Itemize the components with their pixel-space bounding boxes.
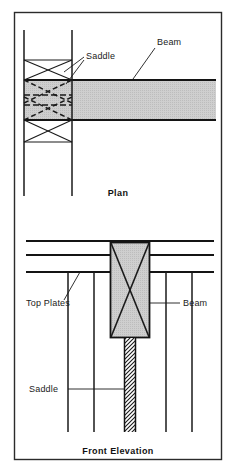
- plan-saddle-fill: [24, 80, 72, 120]
- plan-caption: Plan: [108, 188, 129, 198]
- elevation-saddle-strap-fill: [124, 338, 136, 432]
- page-background: [0, 0, 236, 472]
- elevation-caption: Front Elevation: [82, 446, 154, 456]
- plan-beam-fill: [72, 80, 216, 120]
- elevation-top-plates-label: Top Plates: [26, 298, 70, 308]
- elevation-saddle-label: Saddle: [29, 384, 58, 394]
- plan-saddle-label: Saddle: [86, 51, 115, 61]
- figure-root: Saddle Beam Plan: [0, 0, 236, 472]
- plan-beam-label: Beam: [157, 37, 181, 47]
- technical-drawing: Saddle Beam Plan: [0, 0, 236, 472]
- elevation-beam-label: Beam: [183, 298, 207, 308]
